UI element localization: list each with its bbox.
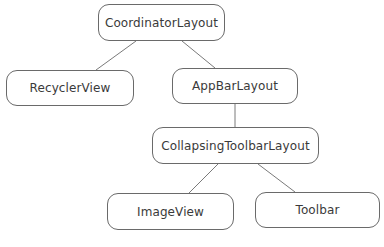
node-recycler-view: RecyclerView — [6, 70, 134, 106]
node-collapsing-toolbar-layout: CollapsingToolbarLayout — [152, 127, 319, 164]
node-label: Toolbar — [296, 203, 340, 217]
edge-coordinator-recycler — [96, 41, 136, 70]
node-label: RecyclerView — [30, 81, 111, 95]
node-label: CoordinatorLayout — [105, 16, 218, 30]
node-toolbar: Toolbar — [255, 192, 380, 228]
edge-collapsing-imageview — [189, 164, 218, 193]
edge-coordinator-appbar — [182, 41, 215, 68]
node-label: AppBarLayout — [192, 79, 278, 93]
node-label: CollapsingToolbarLayout — [161, 139, 309, 153]
edge-collapsing-toolbar — [258, 164, 295, 192]
node-image-view: ImageView — [107, 193, 234, 230]
node-app-bar-layout: AppBarLayout — [172, 68, 298, 104]
node-label: ImageView — [137, 205, 204, 219]
node-coordinator-layout: CoordinatorLayout — [98, 4, 225, 41]
